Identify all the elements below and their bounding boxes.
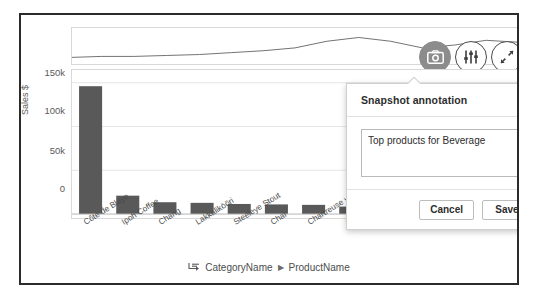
sliders-icon-glyph: [463, 49, 479, 65]
y-axis-title: Sales $: [20, 85, 30, 115]
save-button[interactable]: Save: [482, 200, 519, 220]
popup-pointer-arrow: [408, 77, 422, 84]
breadcrumb-level-2[interactable]: ProductName: [289, 262, 350, 273]
camera-icon-glyph: [427, 50, 444, 64]
popup-header: Snapshot annotation: [347, 84, 519, 117]
breadcrumb-level-1[interactable]: CategoryName: [205, 262, 272, 273]
cancel-button[interactable]: Cancel: [419, 200, 474, 220]
breadcrumb-separator-icon: ▶: [278, 263, 284, 272]
y-tick-150k: 150k: [31, 67, 65, 78]
annotation-textarea[interactable]: [361, 129, 519, 177]
popup-footer: Cancel Save: [347, 189, 519, 229]
popup-body: [347, 117, 519, 191]
y-tick-100k: 100k: [31, 105, 65, 116]
breadcrumb[interactable]: CategoryName ▶ ProductName: [21, 259, 517, 275]
expand-icon-glyph: [499, 49, 515, 65]
visualization-frame: Category Sales $ 150k 100k 50k 0 Côte de…: [19, 13, 519, 285]
popup-title: Snapshot annotation: [361, 94, 467, 106]
bar[interactable]: [79, 86, 102, 214]
y-tick-0: 0: [31, 183, 65, 194]
drill-down-icon: [188, 262, 200, 272]
screenshot-root: Category Sales $ 150k 100k 50k 0 Côte de…: [0, 0, 541, 300]
snapshot-annotation-popup: Snapshot annotation Cancel Save: [346, 83, 519, 230]
y-tick-50k: 50k: [31, 145, 65, 156]
